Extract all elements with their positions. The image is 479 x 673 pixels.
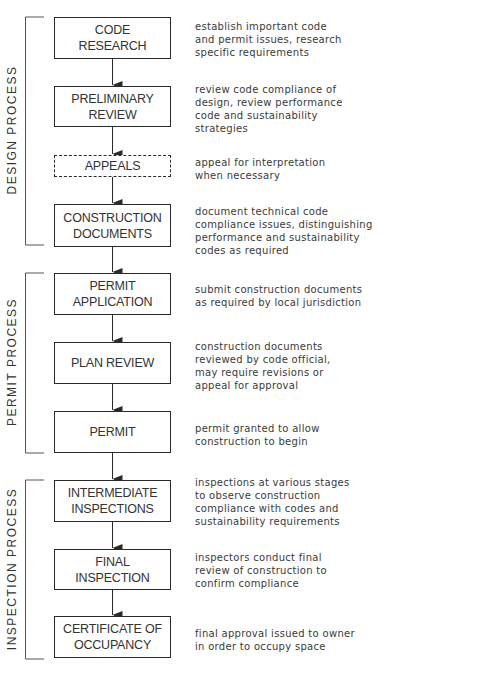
section-label-permit: PERMIT PROCESS	[5, 298, 19, 426]
step-label: CODE RESEARCH	[79, 22, 147, 54]
step-description-construction-documents: document technical code compliance issue…	[195, 205, 475, 257]
step-box-final-inspection: FINAL INSPECTION	[54, 549, 171, 590]
step-box-preliminary-review: PRELIMINARY REVIEW	[54, 86, 171, 127]
step-description-permit-application: submit construction documents as require…	[195, 283, 475, 309]
step-description-final-inspection: inspectors conduct final review of const…	[195, 551, 475, 590]
step-box-code-research: CODE RESEARCH	[54, 17, 171, 59]
step-description-certificate-of-occupancy: final approval issued to owner in order …	[195, 627, 475, 653]
step-label: FINAL INSPECTION	[75, 554, 149, 586]
step-label: INTERMEDIATE INSPECTIONS	[68, 485, 158, 517]
step-description-intermediate-inspections: inspections at various stages to observe…	[195, 476, 475, 528]
section-label-inspection: INSPECTION PROCESS	[5, 488, 19, 650]
step-description-plan-review: construction documents reviewed by code …	[195, 340, 475, 392]
step-description-appeals: appeal for interpretation when necessary	[195, 156, 475, 182]
step-box-intermediate-inspections: INTERMEDIATE INSPECTIONS	[54, 480, 171, 522]
step-box-permit-application: PERMIT APPLICATION	[54, 273, 171, 315]
step-label: PLAN REVIEW	[71, 355, 154, 371]
step-box-permit: PERMIT	[54, 411, 171, 453]
step-label: APPEALS	[85, 158, 141, 174]
step-description-code-research: establish important code and permit issu…	[195, 20, 475, 59]
step-description-permit: permit granted to allow construction to …	[195, 422, 475, 448]
section-bracket-inspection	[26, 480, 45, 659]
section-bracket-design	[26, 17, 45, 245]
section-brackets	[26, 17, 45, 659]
step-label: PRELIMINARY REVIEW	[71, 91, 153, 123]
step-label: CERTIFICATE OF OCCUPANCY	[63, 621, 162, 653]
step-description-preliminary-review: review code compliance of design, review…	[195, 83, 475, 135]
flowchart-canvas: DESIGN PROCESS PERMIT PROCESS INSPECTION…	[0, 0, 479, 673]
step-label: PERMIT APPLICATION	[73, 278, 153, 310]
section-label-design: DESIGN PROCESS	[5, 65, 19, 194]
step-box-construction-documents: CONSTRUCTION DOCUMENTS	[54, 204, 171, 247]
step-box-appeals: APPEALS	[54, 155, 171, 177]
step-label: PERMIT	[89, 424, 135, 440]
step-label: CONSTRUCTION DOCUMENTS	[63, 210, 161, 242]
section-bracket-permit	[26, 273, 45, 453]
step-box-certificate-of-occupancy: CERTIFICATE OF OCCUPANCY	[54, 616, 171, 658]
step-box-plan-review: PLAN REVIEW	[54, 342, 171, 384]
